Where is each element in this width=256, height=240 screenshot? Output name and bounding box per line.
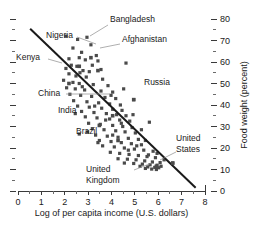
- data-point-marker: [88, 70, 91, 73]
- point-label-united-states-line1: United: [176, 133, 201, 143]
- point-label-bangladesh: Bangladesh: [110, 14, 155, 24]
- data-point-marker: [96, 59, 99, 62]
- data-point-marker: [67, 57, 70, 60]
- data-point-marker: [116, 136, 119, 139]
- data-point-marker: [114, 97, 117, 100]
- data-point-marker: [65, 86, 68, 89]
- data-point-marker: [101, 144, 104, 147]
- point-label-united-kingdom-line1: United: [86, 164, 111, 174]
- data-point-marker: [159, 165, 162, 168]
- data-point-marker: [123, 146, 126, 149]
- data-point-marker: [135, 144, 138, 147]
- data-point-marker: [84, 58, 87, 61]
- data-point-marker: [85, 36, 88, 39]
- data-point-marker: [159, 161, 162, 164]
- y-axis-tick-label: 70: [220, 36, 230, 46]
- data-point-marker: [83, 88, 86, 91]
- data-point-marker: [152, 150, 155, 153]
- leader-line-bangladesh: [90, 25, 108, 36]
- trend-line-group: [30, 29, 195, 188]
- data-point-marker: [122, 87, 125, 90]
- data-point-marker: [116, 157, 119, 160]
- data-point-marker: [119, 103, 122, 106]
- highlighted-point-united-kingdom: [155, 164, 159, 168]
- data-point-marker: [111, 124, 114, 127]
- data-point-marker: [104, 118, 107, 121]
- data-point-marker: [95, 54, 98, 57]
- axis-titles-group: Log of per capita income (U.S. dollars)F…: [35, 61, 249, 218]
- data-point-marker: [71, 81, 74, 84]
- x-axis-tick-label: 1: [39, 197, 44, 207]
- data-point-marker: [140, 143, 143, 146]
- data-point-marker: [93, 104, 96, 107]
- data-point-marker: [109, 140, 112, 143]
- point-label-russia: Russia: [144, 77, 170, 87]
- data-point-marker: [111, 91, 114, 94]
- data-point-marker: [91, 64, 94, 67]
- point-label-brazil: Brazil: [76, 126, 97, 136]
- data-point-marker: [62, 79, 65, 82]
- data-point-marker: [74, 87, 77, 90]
- data-point-marker: [118, 118, 121, 121]
- data-point-marker: [155, 168, 158, 171]
- highlighted-point-bangladesh: [89, 56, 93, 60]
- highlighted-point-brazil: [116, 139, 120, 143]
- data-point-marker: [143, 159, 146, 162]
- data-point-marker: [99, 89, 102, 92]
- data-point-marker: [72, 99, 75, 102]
- point-label-india: India: [58, 105, 77, 115]
- data-point-marker: [92, 83, 95, 86]
- data-point-marker: [127, 137, 130, 140]
- data-point-marker: [71, 46, 74, 49]
- x-axis-tick-label: 0: [15, 197, 20, 207]
- scatter-plot: 01234567801020304050607080 BangladeshNig…: [0, 0, 256, 240]
- data-point-marker: [140, 128, 143, 131]
- data-point-marker: [95, 116, 98, 119]
- data-point-marker: [108, 117, 111, 120]
- x-axis-tick-label: 8: [202, 197, 207, 207]
- data-point-marker: [88, 106, 91, 109]
- data-point-marker: [126, 158, 129, 161]
- data-point-marker: [80, 51, 83, 54]
- y-axis-tick-label: 40: [220, 100, 230, 110]
- point-label-united-states-line2: States: [176, 144, 200, 154]
- highlighted-point-nigeria: [77, 65, 81, 69]
- chart-container: 01234567801020304050607080 BangladeshNig…: [0, 0, 256, 240]
- data-point-marker: [150, 167, 153, 170]
- data-point-marker: [120, 122, 123, 125]
- highlighted-point-china: [111, 114, 115, 118]
- data-point-marker: [148, 121, 151, 124]
- data-point-marker: [120, 141, 123, 144]
- data-point-marker: [101, 78, 104, 81]
- data-point-marker: [92, 111, 95, 114]
- point-label-united-kingdom-line2: Kingdom: [86, 175, 120, 185]
- annotations-group: BangladeshNigeriaAfghanistanKenyaRussiaC…: [16, 14, 201, 185]
- data-point-marker: [113, 145, 116, 148]
- y-axis-tick-label: 10: [220, 165, 230, 175]
- y-axis-title: Food weight (percent): [239, 61, 249, 149]
- x-axis-tick-label: 7: [179, 197, 184, 207]
- x-axis-tick-label: 3: [86, 197, 91, 207]
- data-point-marker: [78, 82, 81, 85]
- data-point-marker: [137, 138, 140, 141]
- data-point-marker: [123, 161, 126, 164]
- data-point-marker: [127, 149, 130, 152]
- data-point-marker: [121, 125, 124, 128]
- data-point-marker: [144, 167, 147, 170]
- point-label-nigeria: Nigeria: [46, 30, 73, 40]
- data-point-marker: [133, 147, 136, 150]
- data-point-marker: [147, 153, 150, 156]
- y-axis-tick-label: 20: [220, 143, 230, 153]
- x-axis-title: Log of per capita income (U.S. dollars): [35, 208, 189, 218]
- data-point-marker: [127, 153, 130, 156]
- highlighted-point-kenya: [67, 82, 71, 86]
- data-point-marker: [134, 158, 137, 161]
- highlighted-point-united-states: [171, 161, 175, 165]
- data-point-marker: [99, 68, 102, 71]
- y-axis-tick-label: 50: [220, 79, 230, 89]
- data-point-marker: [76, 104, 79, 107]
- data-point-marker: [67, 72, 70, 75]
- data-point-marker: [105, 112, 108, 115]
- x-axis-tick-label: 6: [156, 197, 161, 207]
- point-label-afghanistan: Afghanistan: [122, 34, 167, 44]
